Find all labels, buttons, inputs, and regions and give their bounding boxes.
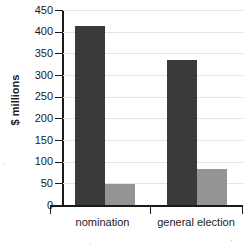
y-tick-label-300: 300 [1, 70, 53, 81]
bar-nomination-series-1 [75, 26, 105, 205]
y-tick-label-200: 200 [1, 113, 53, 124]
scan-speck [90, 243, 91, 244]
y-axis-labels: 450 400 350 300 250 200 150 100 50 0 [0, 0, 53, 247]
y-tick-label-250: 250 [1, 91, 53, 102]
y-tick-label-450: 450 [1, 5, 53, 16]
x-axis-line [50, 205, 243, 207]
bar-nomination-series-2 [105, 184, 135, 205]
bar-chart: $ millions 450 400 350 300 250 200 150 1… [0, 0, 249, 247]
bar-general-election-series-1 [167, 60, 197, 205]
y-tick-label-150: 150 [1, 135, 53, 146]
scan-speck [231, 240, 232, 241]
x-label-general-election: general election [148, 216, 244, 228]
x-tick-left [50, 205, 51, 214]
x-tick-right [242, 205, 243, 214]
y-tick-label-100: 100 [1, 156, 53, 167]
y-tick-label-50: 50 [1, 178, 53, 189]
bar-general-election-series-2 [197, 169, 227, 205]
gridline-450 [63, 10, 243, 11]
y-tick-label-400: 400 [1, 26, 53, 37]
x-tick-middle [150, 205, 151, 214]
x-label-nomination: nomination [55, 216, 150, 228]
y-tick-label-0: 0 [1, 200, 53, 211]
y-tick-label-350: 350 [1, 48, 53, 59]
scan-speck [4, 163, 5, 164]
plot-area [63, 10, 243, 205]
